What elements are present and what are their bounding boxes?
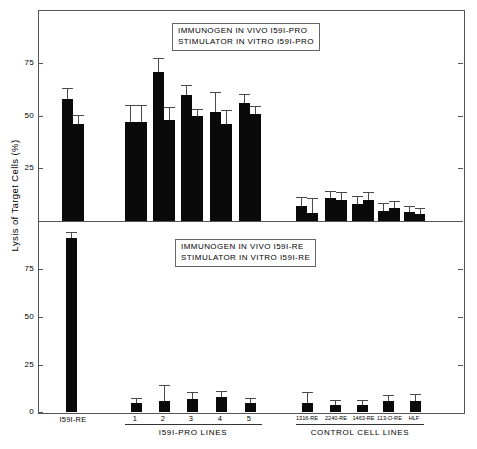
bar-upper-ctl-113ore-b [389,208,400,221]
bar-lower-ctl-113ore [383,401,394,412]
errorcap-upper-ctl-1463re-a [352,196,363,197]
errorcap-upper-1591re-b [73,115,84,116]
errorbar-upper-1591re-a [67,88,68,99]
errorcap-upper-ctl-1316re-b [307,198,318,199]
lower-tick-right-75 [458,269,463,270]
errorcap-lower-pro4 [216,391,227,392]
errorbar-upper-ctl-2240re-a [330,191,331,198]
errorcap-lower-1591re [66,232,77,233]
xlabel-pro-1: 1 [124,414,146,423]
errorcap-upper-pro1-b [136,105,147,106]
bar-upper-pro5-a [239,103,250,221]
errorcap-lower-ctl-1463re [357,400,368,401]
errorcap-lower-ctl-2240re [330,400,341,401]
errorcap-upper-pro2-a [153,58,164,59]
bar-upper-ctl-2240re-b [336,200,347,221]
xlabel-pro-4: 4 [209,414,231,423]
group-rule-control [296,424,424,425]
errorbar-upper-pro3-b [197,109,198,116]
errorcap-upper-1591re-a [62,88,73,89]
lower-tick-25 [38,365,43,366]
upper-tick-50 [38,116,43,117]
errorbar-upper-pro1-a [130,105,131,122]
upper-tick-right-75 [458,63,463,64]
errorcap-upper-pro2-b [164,107,175,108]
lower-legend-line2: STIMULATOR IN VITRO I59I-RE [181,253,310,264]
errorcap-lower-pro3 [187,392,198,393]
errorbar-upper-pro4-a [215,92,216,112]
xlabel-ctl-2240re: 2240-RE [321,415,351,421]
errorbar-upper-pro2-a [158,58,159,72]
bar-upper-ctl-113ore-a [378,211,389,221]
errorcap-upper-ctl-hlf-a [404,206,415,207]
bar-upper-ctl-hlf-b [415,214,425,221]
bar-upper-pro3-b [192,116,203,221]
errorcap-upper-pro4-a [210,92,221,93]
lower-panel-legend: IMMUNOGEN IN VIVO I59I-RE STIMULATOR IN … [175,239,316,267]
bar-upper-ctl-2240re-a [325,198,336,221]
errorbar-upper-ctl-1316re-a [301,197,302,206]
bar-lower-pro3 [187,399,198,412]
errorcap-lower-pro2 [159,385,170,386]
errorcap-upper-ctl-113ore-b [389,201,400,202]
errorbar-upper-ctl-113ore-a [383,203,384,211]
xlabel-1591re: I59I-RE [42,415,104,424]
bar-lower-pro2 [159,401,170,412]
xlabel-pro-2: 2 [152,414,174,423]
errorbar-upper-pro4-b [226,110,227,124]
upper-tick-75 [38,63,43,64]
errorbar-lower-pro2 [164,385,165,401]
errorbar-upper-pro5-b [255,106,256,114]
group-label-pro: I59I-PRO LINES [133,428,253,437]
errorcap-upper-pro3-a [181,85,192,86]
errorcap-upper-pro3-b [192,109,203,110]
errorbar-upper-ctl-2240re-b [341,192,342,200]
errorbar-upper-pro2-b [169,107,170,120]
lower-ticklabel-25: 25 [12,360,34,369]
lower-ticklabel-50: 50 [12,312,34,321]
bar-upper-pro1-a [125,122,136,221]
bar-upper-pro2-b [164,120,175,221]
bar-upper-ctl-1316re-b [307,213,318,221]
errorcap-upper-pro1-a [125,105,136,106]
errorcap-upper-ctl-1463re-b [363,192,374,193]
lower-legend-line1: IMMUNOGEN IN VIVO I59I-RE [181,242,310,253]
lower-tick-right-50 [458,317,463,318]
bar-upper-ctl-1316re-a [296,206,307,221]
bar-lower-ctl-1463re [357,405,368,412]
xlabel-pro-3: 3 [180,414,202,423]
xlabel-pro-5: 5 [238,414,260,423]
bar-upper-pro4-a [210,112,221,221]
upper-ticklabel-25: 25 [12,163,34,172]
bar-upper-pro4-b [221,124,232,221]
lower-tick-50 [38,317,43,318]
group-label-control: CONTROL CELL LINES [298,428,422,437]
panel-divider [38,221,463,222]
errorcap-upper-ctl-2240re-a [325,191,336,192]
errorbar-upper-pro1-b [141,105,142,122]
bar-upper-ctl-1463re-b [363,200,374,221]
bar-lower-ctl-hlf [410,401,421,412]
errorbar-upper-ctl-1463re-a [357,196,358,204]
errorcap-lower-ctl-1316re [302,392,313,393]
bar-upper-ctl-hlf-a [404,212,415,221]
bar-upper-pro1-b [136,122,147,221]
xlabel-ctl-1316re: 1316-RE [292,415,322,421]
upper-legend-line1: IMMUNOGEN IN VIVO I59I-PRO [178,26,314,37]
errorcap-upper-ctl-1316re-a [296,197,307,198]
bar-lower-ctl-2240re [330,405,341,412]
errorbar-upper-1591re-b [78,115,79,124]
upper-panel-legend: IMMUNOGEN IN VIVO I59I-PRO STIMULATOR IN… [172,23,320,51]
bar-upper-1591re-a [62,99,73,221]
lower-tick-right-25 [458,365,463,366]
upper-legend-line2: STIMULATOR IN VITRO I59I-PRO [178,37,314,48]
errorbar-upper-ctl-1463re-b [368,192,369,200]
errorcap-upper-pro5-b [250,106,261,107]
xlabel-ctl-hlf: HLF [402,415,426,421]
errorcap-upper-ctl-hlf-b [415,208,425,209]
upper-ticklabel-50: 50 [12,111,34,120]
errorcap-upper-ctl-113ore-a [378,203,389,204]
group-rule-pro [125,424,262,425]
errorbar-upper-ctl-113ore-b [394,201,395,208]
bar-lower-ctl-1316re [302,403,313,412]
